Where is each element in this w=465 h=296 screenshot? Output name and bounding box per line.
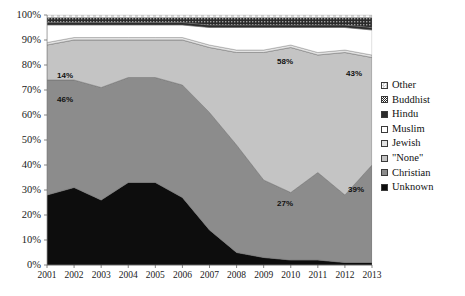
legend-item[interactable]: Buddhist	[381, 93, 465, 108]
area-series	[47, 15, 372, 18]
legend-swatch-icon	[381, 96, 388, 103]
data-point-label: 58%	[277, 58, 293, 66]
data-point-label: 27%	[277, 200, 293, 208]
legend-item[interactable]: Other	[381, 78, 465, 93]
legend-swatch-icon	[381, 140, 388, 147]
x-axis-tick-label: 2013	[356, 271, 388, 281]
y-axis-tick-label: 0%	[27, 260, 41, 271]
y-axis-tick-label: 30%	[22, 185, 41, 196]
data-point-label: 39%	[348, 186, 364, 194]
legend-swatch-icon	[381, 111, 388, 118]
y-axis-tick-label: 90%	[22, 35, 41, 46]
chart-legend: OtherBuddhistHinduMuslimJewish"None"Chri…	[381, 78, 465, 195]
y-axis-tick-label: 50%	[22, 135, 41, 146]
stacked-area-chart: 0%10%20%30%40%50%60%70%80%90%100% 200120…	[0, 0, 465, 296]
data-point-label: 43%	[346, 70, 362, 78]
legend-item[interactable]: Unknown	[381, 180, 465, 195]
y-axis-tick-label: 80%	[22, 60, 41, 71]
y-axis-tick-label: 70%	[22, 85, 41, 96]
data-point-label: 46%	[57, 96, 73, 104]
y-axis-tick-label: 10%	[22, 235, 41, 246]
legend-item[interactable]: Hindu	[381, 107, 465, 122]
legend-swatch-icon	[381, 169, 388, 176]
legend-item[interactable]: "None"	[381, 151, 465, 166]
legend-item[interactable]: Christian	[381, 166, 465, 181]
y-axis-tick-label: 20%	[22, 210, 41, 221]
y-axis-tick-label: 60%	[22, 110, 41, 121]
legend-label: "None"	[392, 151, 423, 166]
area-series-group	[47, 15, 372, 265]
legend-label: Muslim	[392, 122, 425, 137]
legend-label: Hindu	[392, 107, 418, 122]
legend-swatch-icon	[381, 184, 388, 191]
legend-item[interactable]: Muslim	[381, 122, 465, 137]
legend-swatch-icon	[381, 126, 388, 133]
data-point-label: 14%	[57, 72, 73, 80]
legend-swatch-icon	[381, 155, 388, 162]
legend-label: Unknown	[392, 180, 433, 195]
legend-label: Other	[392, 78, 416, 93]
legend-label: Buddhist	[392, 93, 430, 108]
legend-item[interactable]: Jewish	[381, 136, 465, 151]
y-axis-tick-label: 40%	[22, 160, 41, 171]
y-axis-tick-label: 100%	[17, 10, 42, 21]
legend-swatch-icon	[381, 82, 388, 89]
legend-label: Christian	[392, 166, 431, 181]
legend-label: Jewish	[392, 136, 421, 151]
